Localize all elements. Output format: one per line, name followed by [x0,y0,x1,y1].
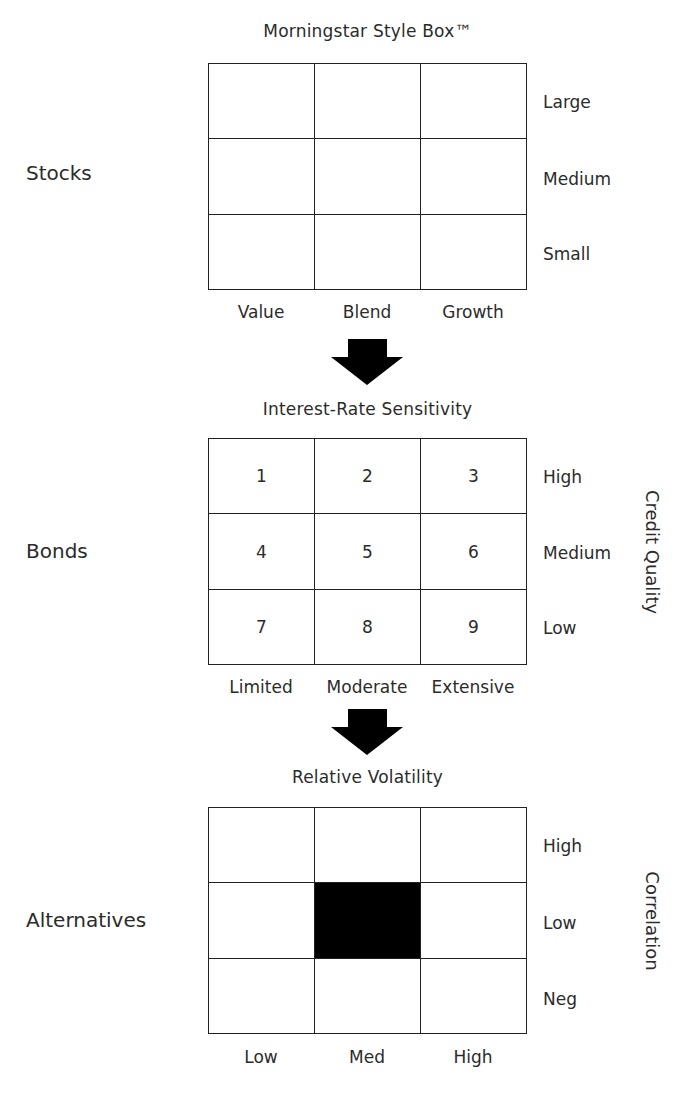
bonds-cell-6: 6 [421,514,526,590]
bonds-cell-9: 9 [421,590,526,664]
alternatives-col-label-low: Low [208,1046,314,1068]
stocks-cell-small-value [209,215,315,289]
alternatives-row-label-high: High [543,835,582,857]
alternatives-group-label: Alternatives [26,907,146,933]
stocks-cell-medium-blend [315,139,421,215]
alternatives-cell-low-med-highlighted [315,883,421,959]
bonds-cell-3: 3 [421,439,526,514]
bonds-cell-7: 7 [209,590,315,664]
alternatives-row-label-neg: Neg [543,988,577,1010]
stocks-cell-small-growth [421,215,526,289]
bonds-row-label-low: Low [543,617,576,639]
bonds-credit-quality-axis-label: Credit Quality [641,490,663,614]
alternatives-cell-low-high [421,883,526,959]
alternatives-cell-high-low [209,808,315,883]
alternatives-col-label-med: Med [314,1046,420,1068]
bonds-cell-5: 5 [315,514,421,590]
stocks-cell-large-blend [315,64,421,139]
stocks-col-label-growth: Growth [420,301,526,323]
bonds-row-label-high: High [543,466,582,488]
bonds-col-label-moderate: Moderate [314,676,420,698]
stocks-col-label-value: Value [208,301,314,323]
alternatives-cell-low-low [209,883,315,959]
stocks-style-box-title: Morningstar Style Box™ [208,20,527,42]
stocks-cell-large-growth [421,64,526,139]
alternatives-cell-neg-high [421,959,526,1033]
alternatives-col-label-high: High [420,1046,526,1068]
down-arrow-icon [331,339,403,385]
stocks-col-label-blend: Blend [314,301,420,323]
alternatives-cell-neg-med [315,959,421,1033]
bonds-group-label: Bonds [26,538,88,564]
stocks-style-box-grid [208,63,527,290]
stocks-row-label-small: Small [543,243,590,265]
bonds-style-box-grid: 1 2 3 4 5 6 7 8 9 [208,438,527,665]
stocks-row-label-large: Large [543,91,591,113]
stocks-cell-large-value [209,64,315,139]
stocks-cell-medium-growth [421,139,526,215]
alternatives-cell-neg-low [209,959,315,1033]
bonds-cell-8: 8 [315,590,421,664]
stocks-group-label: Stocks [26,160,92,186]
alternatives-style-box-grid [208,807,527,1034]
stocks-cell-medium-value [209,139,315,215]
stocks-cell-small-blend [315,215,421,289]
alternatives-row-label-low: Low [543,912,576,934]
bonds-cell-1: 1 [209,439,315,514]
alternatives-relative-volatility-title: Relative Volatility [208,766,527,788]
alternatives-cell-high-med [315,808,421,883]
stocks-row-label-medium: Medium [543,168,611,190]
bonds-row-label-medium: Medium [543,542,611,564]
alternatives-correlation-axis-label: Correlation [641,871,663,970]
down-arrow-icon [331,709,403,755]
bonds-cell-4: 4 [209,514,315,590]
bonds-cell-2: 2 [315,439,421,514]
alternatives-cell-high-high [421,808,526,883]
bonds-interest-rate-title: Interest-Rate Sensitivity [208,398,527,420]
bonds-col-label-extensive: Extensive [420,676,526,698]
bonds-col-label-limited: Limited [208,676,314,698]
